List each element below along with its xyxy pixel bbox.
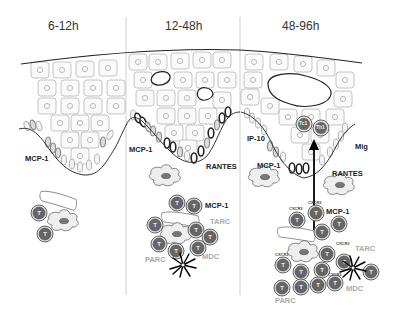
label-tarc: TARC — [210, 218, 230, 226]
t-cell — [274, 280, 290, 296]
label-parc: PARC — [275, 297, 296, 305]
t-cell — [331, 216, 347, 232]
t-cell — [275, 257, 291, 273]
t-cell — [151, 236, 167, 252]
blood-vessel — [277, 227, 315, 242]
label-tarc: TARC — [355, 245, 375, 253]
label-parc: PARC — [145, 256, 166, 264]
phase-label-1: 6-12h — [48, 19, 79, 33]
t-cell — [314, 224, 330, 240]
label-rantes: RANTES — [206, 163, 237, 171]
label-tc1: Tc1 — [299, 121, 307, 126]
damaged-cell — [151, 72, 170, 86]
damaged-cell — [197, 88, 213, 100]
label-mcp1: MCP-1 — [326, 208, 349, 216]
t-cell — [202, 229, 218, 245]
label-cxcr3: CXCR3 — [328, 273, 342, 277]
label-mcp1: MCP-1 — [257, 162, 280, 170]
t-cell — [327, 275, 343, 291]
label-rantes: RANTES — [332, 170, 363, 178]
macrophage — [47, 210, 78, 231]
t-cell — [293, 279, 309, 295]
label-cxcr3: CXCR3 — [275, 253, 289, 257]
t-cell — [31, 205, 47, 221]
label-cxcr3: CXCR3 — [289, 207, 303, 211]
label-mdc: MDC — [346, 285, 363, 293]
label-mig: Mig — [355, 143, 368, 151]
t-cell — [147, 217, 163, 233]
phase-label-3: 48-96h — [282, 19, 319, 33]
label-mcp1: MCP-1 — [25, 155, 48, 163]
macrophage — [287, 241, 318, 262]
t-cell — [169, 195, 185, 211]
t-cell — [363, 264, 379, 280]
label-mdc: MDC — [202, 253, 219, 261]
t-cell — [293, 264, 309, 280]
t-cell — [37, 226, 53, 242]
label-cxcr3: CXCR3 — [336, 242, 350, 246]
t-cell — [188, 222, 204, 238]
label-ip10: IP-10 — [247, 135, 265, 143]
t-cell — [308, 205, 324, 221]
t-cell — [289, 212, 305, 228]
label-th1: Th1 — [316, 125, 325, 130]
diagram: T — [0, 0, 399, 324]
t-cell — [319, 246, 335, 262]
macrophage — [149, 165, 180, 186]
epithelium — [23, 52, 354, 174]
t-cell — [310, 277, 326, 293]
label-mcp1: MCP-1 — [205, 202, 228, 210]
label-mcp1: MCP-1 — [129, 146, 152, 154]
t-cell — [186, 198, 202, 214]
label-cxcr3: CXCR3 — [308, 201, 322, 205]
phase-label-2: 12-48h — [165, 19, 202, 33]
